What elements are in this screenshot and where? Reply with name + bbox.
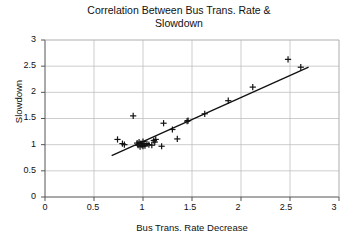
gridlines (45, 40, 339, 197)
chart-container: Correlation Between Bus Trans. Rate & Sl… (0, 0, 358, 244)
plot-area (0, 0, 358, 244)
